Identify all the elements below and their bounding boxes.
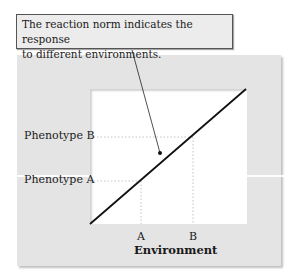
reaction-norm-line xyxy=(90,89,246,224)
label-phenotype-b: Phenotype B xyxy=(24,129,94,142)
callout-pointer-dot xyxy=(158,151,162,155)
callout-line-1: The reaction norm indicates the response xyxy=(22,17,232,47)
callout-line-2: to different environments. xyxy=(22,47,232,62)
label-env-b: B xyxy=(189,230,197,243)
label-env-a: A xyxy=(137,230,145,243)
callout-box: The reaction norm indicates the response… xyxy=(16,14,233,49)
x-axis-title: Environment xyxy=(134,243,217,257)
callout-pointer xyxy=(132,50,160,153)
label-phenotype-a: Phenotype A xyxy=(24,173,94,186)
